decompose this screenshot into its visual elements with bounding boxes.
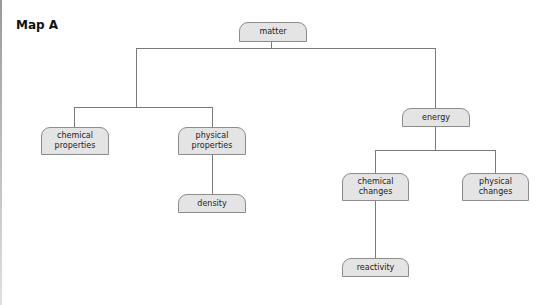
connector — [435, 127, 436, 150]
connector — [74, 107, 213, 108]
connector — [212, 155, 213, 194]
connector — [375, 150, 496, 151]
node-energy: energy — [402, 108, 470, 127]
connector — [375, 150, 376, 173]
connector — [74, 107, 75, 127]
node-physical-changes: physical changes — [462, 173, 529, 201]
node-chemical-changes: chemical changes — [342, 173, 409, 201]
node-density: density — [178, 194, 246, 213]
map-title: Map A — [16, 18, 58, 32]
node-chemical-properties: chemical properties — [41, 127, 109, 155]
connector — [136, 48, 436, 49]
node-physical-properties: physical properties — [178, 127, 246, 155]
connector — [495, 150, 496, 173]
node-matter: matter — [239, 22, 307, 42]
connector — [375, 200, 376, 258]
node-reactivity: reactivity — [342, 258, 409, 277]
connector — [435, 48, 436, 108]
connector — [212, 107, 213, 127]
connector — [271, 41, 272, 48]
page-edge — [0, 0, 2, 305]
connector — [136, 48, 137, 107]
